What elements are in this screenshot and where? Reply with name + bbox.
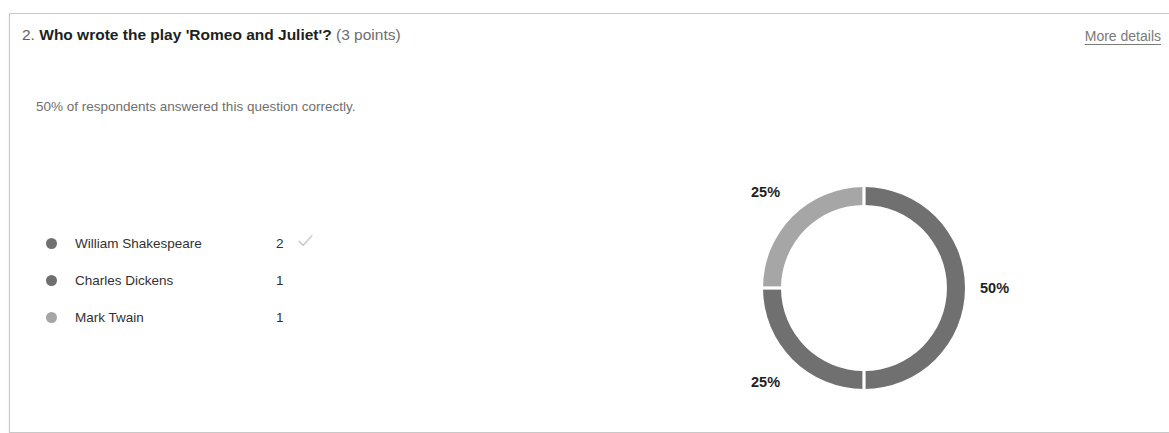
question-points: (3 points) <box>336 26 401 43</box>
donut-gap-left <box>762 286 783 289</box>
legend-color-dot <box>46 238 57 249</box>
option-count: 2 <box>276 234 284 253</box>
card-header: 2. Who wrote the play 'Romeo and Juliet'… <box>10 14 1169 56</box>
legend-color-dot <box>46 275 57 286</box>
list-item[interactable]: Mark Twain 1 <box>36 301 366 338</box>
donut-label-0: 50% <box>980 279 1009 297</box>
list-item[interactable]: Charles Dickens 1 <box>36 264 366 301</box>
page-title: 2. Who wrote the play 'Romeo and Juliet'… <box>22 25 401 45</box>
legend-color-dot <box>46 312 57 323</box>
donut-label-1: 25% <box>751 373 780 391</box>
donut-gap-top <box>862 186 865 207</box>
correct-summary-text: 50% of respondents answered this questio… <box>36 98 355 116</box>
donut-slice-2[interactable] <box>763 187 864 288</box>
list-item[interactable]: William Shakespeare 2 <box>36 227 366 264</box>
check-icon <box>297 232 314 249</box>
option-label: Charles Dickens <box>75 271 173 290</box>
option-label: Mark Twain <box>75 308 144 327</box>
question-number: 2. <box>22 26 35 43</box>
option-count: 1 <box>276 308 284 327</box>
more-details-link[interactable]: More details <box>1085 27 1161 45</box>
donut-chart: 50% 25% 25% <box>710 159 1040 415</box>
option-count: 1 <box>276 271 284 290</box>
question-text: Who wrote the play 'Romeo and Juliet'? <box>39 26 331 43</box>
donut-gap-bottom <box>862 369 865 390</box>
options-legend: William Shakespeare 2 Charles Dickens 1 … <box>36 227 366 338</box>
option-label: William Shakespeare <box>75 234 202 253</box>
question-result-card: 2. Who wrote the play 'Romeo and Juliet'… <box>9 13 1169 433</box>
donut-slice-0[interactable] <box>864 187 965 389</box>
donut-label-2: 25% <box>751 183 780 201</box>
